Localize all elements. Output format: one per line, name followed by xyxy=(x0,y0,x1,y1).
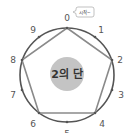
center-label: 2의 단 xyxy=(51,67,82,81)
digit-label-4: 4 xyxy=(99,119,105,129)
bubble-text: 시작~ xyxy=(79,9,91,16)
digit-label-0: 0 xyxy=(64,13,70,23)
multiplication-circle-diagram: 2의 단 0 1 2 3 4 5 6 7 8 9 시작~ xyxy=(0,0,135,133)
digit-label-1: 1 xyxy=(98,25,104,35)
digit-label-2: 2 xyxy=(117,55,123,65)
digit-label-7: 7 xyxy=(10,90,16,100)
digit-label-5: 5 xyxy=(64,129,70,133)
digit-label-8: 8 xyxy=(10,55,16,65)
digit-label-6: 6 xyxy=(30,119,36,129)
digit-label-9: 9 xyxy=(30,25,36,35)
speech-bubble: 시작~ xyxy=(73,7,94,17)
digit-label-3: 3 xyxy=(118,90,124,100)
